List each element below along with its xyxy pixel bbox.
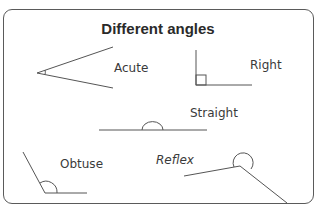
acute-angle — [37, 47, 113, 88]
label-reflex: Reflex — [156, 153, 194, 167]
straight-angle — [99, 122, 207, 130]
reflex-angle — [184, 153, 287, 203]
angles-drawing — [0, 0, 330, 215]
label-acute: Acute — [114, 61, 148, 75]
label-straight: Straight — [190, 106, 238, 120]
right-angle — [196, 50, 252, 85]
label-right: Right — [250, 58, 282, 72]
label-obtuse: Obtuse — [60, 157, 103, 171]
